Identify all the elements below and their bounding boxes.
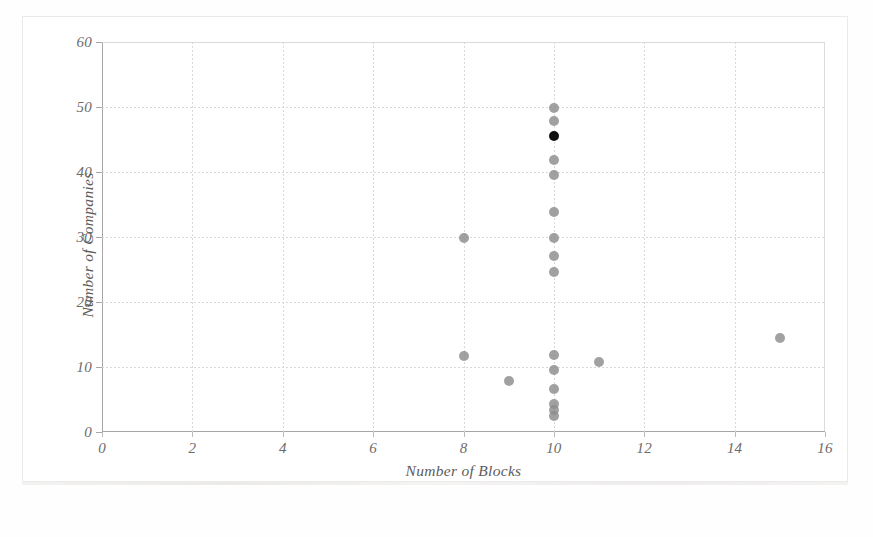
gridline-v [644,42,645,432]
scatter-point [549,170,559,180]
y-tick-label: 60 [77,34,92,51]
y-tick [96,42,102,43]
x-tick-label: 0 [98,440,106,457]
x-tick-label: 6 [369,440,377,457]
x-tick-label: 8 [460,440,468,457]
x-tick-label: 16 [817,440,832,457]
x-tick-label: 10 [546,440,561,457]
x-tick [825,432,826,437]
x-axis-title: Number of Blocks [102,462,825,480]
scatter-point [549,155,559,165]
gridline-v [192,42,193,432]
y-tick-label: 0 [84,424,92,441]
y-axis-title-wrap: Number of Companies [56,40,57,430]
plot-area [102,42,825,432]
scatter-point [549,116,559,126]
scatter-point [549,131,559,141]
y-tick-label: 50 [77,99,92,116]
scatter-point [549,411,559,421]
gridline-v [735,42,736,432]
x-tick-label: 4 [279,440,287,457]
y-tick [96,107,102,108]
scatter-point [549,365,559,375]
x-axis-tick-labels: 0246810121416 [102,434,825,460]
scatter-point [459,233,469,243]
scatter-point [549,251,559,261]
chart-page: 0102030405060 0246810121416 Number of Bl… [0,0,873,537]
y-tick [96,367,102,368]
x-tick-label: 12 [637,440,652,457]
scatter-point [549,233,559,243]
scatter-point [504,376,514,386]
scatter-point [549,384,559,394]
y-axis-title: Number of Companies [79,135,97,355]
scatter-point [549,103,559,113]
scatter-point [549,207,559,217]
x-tick-label: 2 [189,440,197,457]
scatter-point [775,333,785,343]
x-tick-label: 14 [727,440,742,457]
gridline-v [283,42,284,432]
scatter-point [459,351,469,361]
gridline-v [373,42,374,432]
y-tick-label: 10 [77,359,92,376]
scatter-point [594,357,604,367]
scatter-point [549,350,559,360]
scatter-point [549,267,559,277]
